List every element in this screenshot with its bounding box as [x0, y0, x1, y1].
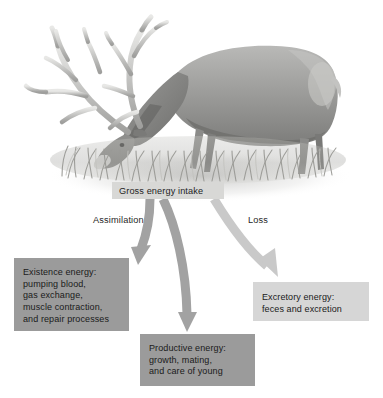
assimilation-label: Assimilation [93, 215, 144, 225]
productive-line-3: and care of young [149, 366, 255, 378]
productive-line-1: Productive energy: [149, 343, 255, 355]
existence-line-2: pumping blood, [23, 279, 129, 291]
existence-line-1: Existence energy: [23, 267, 129, 279]
existence-energy-box: Existence energy: pumping blood, gas exc… [14, 258, 129, 331]
excretory-line-1: Excretory energy: [262, 292, 369, 304]
grass-field [50, 136, 346, 184]
productive-energy-box: Productive energy: growth, mating, and c… [140, 334, 255, 386]
arrow-assimilation-middle [163, 199, 197, 332]
excretory-energy-box: Excretory energy: feces and excretion [253, 282, 369, 321]
arrow-loss-right [214, 199, 278, 277]
gross-energy-intake-label: Gross energy intake [112, 182, 224, 199]
gross-energy-intake-text: Gross energy intake [119, 186, 224, 198]
grazing-elk-illustration [0, 0, 383, 205]
productive-line-2: growth, mating, [149, 355, 255, 367]
figure-canvas: Gross energy intake Assimilation Loss Ex… [0, 0, 383, 398]
arrow-assimilation-left [131, 199, 151, 265]
existence-line-3: gas exchange, [23, 290, 129, 302]
existence-line-4: muscle contraction, [23, 302, 129, 314]
excretory-line-2: feces and excretion [262, 304, 369, 316]
existence-line-5: and repair processes [23, 314, 129, 326]
loss-label: Loss [248, 215, 268, 225]
